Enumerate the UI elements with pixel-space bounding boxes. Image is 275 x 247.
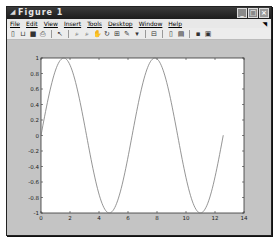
save-icon[interactable]: ■ — [29, 30, 37, 38]
y-tick-label: -0.8 — [28, 195, 39, 201]
axes-box — [41, 58, 244, 213]
dock-arrow-icon[interactable]: ◥ — [262, 19, 267, 28]
data-cursor-icon[interactable]: ⊞ — [113, 30, 121, 38]
y-tick-label: -0.4 — [28, 164, 39, 170]
menu-bar: File Edit View Insert Tools Desktop Wind… — [7, 19, 271, 28]
menu-help[interactable]: Help — [168, 19, 182, 28]
zoom-in-icon[interactable]: ⌕ — [73, 30, 81, 38]
edit-plot-icon[interactable]: ↖ — [56, 30, 64, 38]
window-controls: _ □ × — [237, 8, 269, 18]
x-tick-label: 8 — [155, 215, 159, 221]
menu-insert[interactable]: Insert — [64, 19, 81, 28]
minimize-button[interactable]: _ — [237, 8, 247, 18]
toolbar-separator — [145, 30, 146, 38]
figure-window: ◢ Figure 1 _ □ × File Edit View Insert T… — [6, 6, 272, 236]
x-tick-label: 10 — [183, 215, 190, 221]
insert-legend-icon[interactable]: ▤ — [177, 30, 185, 38]
y-tick-label: 0.8 — [30, 71, 39, 77]
x-tick-label: 0 — [39, 215, 43, 221]
pan-icon[interactable]: ✋ — [93, 30, 101, 38]
matlab-figure-icon: ◢ — [10, 9, 16, 16]
zoom-out-icon[interactable]: ⌕ — [83, 30, 91, 38]
link-icon[interactable]: ⊟ — [150, 30, 158, 38]
new-figure-icon[interactable]: ▯ — [9, 30, 17, 38]
menu-file[interactable]: File — [10, 19, 20, 28]
rotate-3d-icon[interactable]: ↻ — [103, 30, 111, 38]
print-icon[interactable]: ⎙ — [39, 30, 47, 38]
y-tick-label: -0.6 — [28, 179, 39, 185]
figure-toolbar: ▯ ⊔ ■ ⎙ ↖ ⌕ ⌕ ✋ ↻ ⊞ ✎ ▾ ⊟ ▯ ▤ ▪ ▣ — [7, 28, 271, 40]
toolbar-separator — [51, 30, 52, 38]
x-tick-label: 4 — [97, 215, 101, 221]
menu-edit[interactable]: Edit — [26, 19, 38, 28]
y-tick-label: 1 — [36, 55, 40, 61]
y-tick-label: -1 — [34, 210, 39, 216]
x-tick-label: 6 — [126, 215, 130, 221]
title-bar[interactable]: ◢ Figure 1 _ □ × — [7, 7, 271, 19]
y-tick-label: -0.2 — [28, 148, 39, 154]
brush-icon[interactable]: ✎ — [123, 30, 131, 38]
toolbar-separator — [68, 30, 69, 38]
x-tick-label: 12 — [212, 215, 219, 221]
menu-desktop[interactable]: Desktop — [108, 19, 133, 28]
y-tick-label: 0 — [36, 133, 40, 139]
dropdown-arrow-icon[interactable]: ▾ — [133, 30, 141, 38]
maximize-button[interactable]: □ — [248, 8, 258, 18]
show-plot-tools-icon[interactable]: ▣ — [204, 30, 212, 38]
window-title: Figure 1 — [18, 7, 63, 19]
x-tick-label: 14 — [241, 215, 248, 221]
figure-canvas: 02468101214-1-0.8-0.6-0.4-0.200.20.40.60… — [7, 40, 271, 235]
toolbar-separator — [162, 30, 163, 38]
menu-tools[interactable]: Tools — [87, 19, 102, 28]
menu-view[interactable]: View — [44, 19, 58, 28]
y-tick-label: 0.2 — [30, 117, 39, 123]
line-chart: 02468101214-1-0.8-0.6-0.4-0.200.20.40.60… — [7, 40, 271, 235]
y-tick-label: 0.4 — [30, 102, 39, 108]
toolbar-separator — [189, 30, 190, 38]
close-button[interactable]: × — [259, 8, 269, 18]
menu-window[interactable]: Window — [139, 19, 163, 28]
y-tick-label: 0.6 — [30, 86, 39, 92]
insert-colorbar-icon[interactable]: ▯ — [167, 30, 175, 38]
open-file-icon[interactable]: ⊔ — [19, 30, 27, 38]
hide-plot-tools-icon[interactable]: ▪ — [194, 30, 202, 38]
x-tick-label: 2 — [68, 215, 72, 221]
